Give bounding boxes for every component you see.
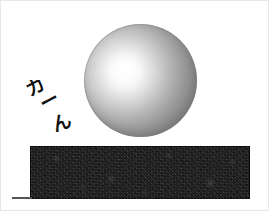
- page-edge-top: [0, 0, 269, 1]
- sphere-halftone-texture: [84, 24, 197, 137]
- illustration-scene: カ ー ん: [0, 0, 269, 211]
- sfx-char-1: ー: [36, 86, 63, 114]
- sound-effect-text: カ ー ん: [22, 80, 84, 142]
- sfx-char-0: カ: [22, 80, 49, 101]
- ground-line: [12, 197, 32, 199]
- page-edge-right: [268, 0, 269, 211]
- page-edge-bottom: [0, 210, 269, 211]
- sfx-char-2: ん: [49, 109, 74, 136]
- sphere-object: [84, 24, 197, 137]
- sphere-outline: [84, 24, 197, 137]
- page-edge-left: [0, 0, 1, 211]
- block-object: [30, 146, 250, 199]
- block-grain-texture: [30, 146, 250, 199]
